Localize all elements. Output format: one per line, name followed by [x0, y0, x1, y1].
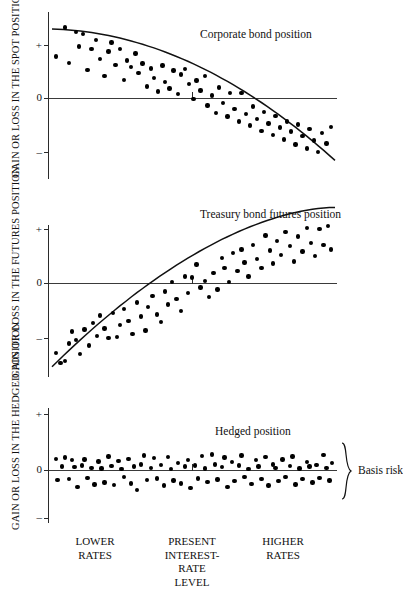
scatter-point: [215, 287, 219, 291]
scatter-point: [70, 329, 74, 333]
scatter-point: [171, 68, 175, 72]
scatter-point: [239, 453, 243, 457]
scatter-point: [126, 319, 130, 323]
scatter-point: [135, 300, 139, 304]
scatter-point: [215, 477, 219, 481]
x-axis-label-higher-rates: HIGHER RATES: [243, 535, 323, 562]
scatter-point: [70, 458, 74, 462]
scatter-point: [166, 302, 170, 306]
scatter-point: [307, 464, 311, 468]
scatter-point: [72, 465, 76, 469]
y-ticklabel-plus-3: +: [28, 409, 42, 420]
scatter-point: [176, 92, 180, 96]
scatter-point: [109, 464, 113, 468]
scatter-point: [232, 479, 236, 483]
scatter-point: [198, 88, 202, 92]
scatter-point: [119, 467, 123, 471]
scatter-point: [203, 466, 207, 470]
scatter-point: [317, 476, 321, 480]
scatter-point: [266, 483, 270, 487]
scatter-point: [305, 226, 309, 230]
scatter-point: [213, 462, 217, 466]
y-axis-line-3: [48, 408, 49, 523]
scatter-point: [80, 463, 84, 467]
y-ticklabel-zero-3: 0: [28, 464, 42, 475]
scatter-point: [327, 478, 331, 482]
scatter-point: [145, 478, 149, 482]
scatter-point: [155, 312, 159, 316]
scatter-point: [310, 480, 314, 484]
scatter-point: [283, 475, 287, 479]
scatter-point: [256, 464, 260, 468]
scatter-point: [112, 483, 116, 487]
scatter-point: [166, 455, 170, 459]
scatter-point: [160, 63, 164, 67]
scatter-point: [139, 462, 143, 466]
scatter-point: [239, 91, 243, 95]
scatter-point: [271, 261, 275, 265]
scatter-point: [273, 466, 277, 470]
scatter-point: [200, 454, 204, 458]
scatter-point: [194, 78, 198, 82]
scatter-point: [293, 482, 297, 486]
scatter-point: [87, 343, 91, 347]
scatter-point: [263, 233, 267, 237]
scatter-point: [235, 269, 239, 273]
scatter-point: [106, 336, 110, 340]
scatter-point: [290, 454, 294, 458]
scatter-point: [186, 291, 190, 295]
scatter-point: [179, 481, 183, 485]
scatter-point: [285, 119, 289, 123]
scatter-point: [324, 466, 328, 470]
scatter-point: [142, 453, 146, 457]
scatter-point: [300, 134, 304, 138]
scatter-point: [193, 463, 197, 467]
scatter-point: [292, 259, 296, 263]
scatter-point: [126, 457, 130, 461]
scatter-point: [276, 479, 280, 483]
scatter-point: [140, 61, 144, 65]
scatter-point: [293, 142, 297, 146]
scatter-point: [133, 51, 137, 55]
trend-curve-corporate-bond: [0, 0, 399, 195]
panel-title-hedged: Hedged position: [215, 425, 291, 437]
scatter-point: [330, 461, 334, 465]
scatter-point: [237, 119, 241, 123]
scatter-point: [63, 359, 67, 363]
scatter-point: [102, 480, 106, 484]
scatter-point: [222, 266, 226, 270]
scatter-point: [205, 103, 209, 107]
scatter-point: [225, 114, 229, 118]
scatter-point: [63, 455, 67, 459]
basis-risk-brace: [340, 442, 356, 500]
scatter-point: [139, 314, 143, 318]
scatter-point: [96, 459, 100, 463]
scatter-point: [282, 137, 286, 141]
scatter-point: [106, 49, 110, 53]
scatter-point: [122, 475, 126, 479]
scatter-point: [268, 248, 272, 252]
panel-hedged: GAIN OR LOSS IN THE HEDGED POSITION Hedg…: [0, 390, 399, 585]
scatter-point: [143, 328, 147, 332]
scatter-point: [288, 464, 292, 468]
scatter-point: [210, 452, 214, 456]
scatter-point: [205, 480, 209, 484]
scatter-point: [324, 141, 328, 145]
scatter-point: [232, 107, 236, 111]
scatter-point: [211, 271, 215, 275]
scatter-point: [155, 476, 159, 480]
scatter-point: [136, 71, 140, 75]
scatter-point: [297, 466, 301, 470]
scatter-point: [289, 129, 293, 133]
scatter-point: [77, 44, 81, 48]
scatter-point: [159, 463, 163, 467]
scatter-point: [244, 112, 248, 116]
scatter-point: [85, 476, 89, 480]
scatter-point: [58, 361, 62, 365]
scatter-point: [314, 463, 318, 467]
scatter-point: [125, 58, 129, 62]
scatter-point: [312, 138, 316, 142]
scatter-point: [283, 230, 287, 234]
scatter-point: [321, 453, 325, 457]
scatter-point: [278, 125, 282, 129]
